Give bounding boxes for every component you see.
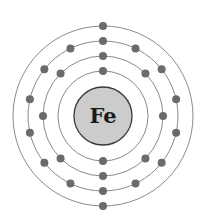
- electron-shell-3: [40, 159, 48, 167]
- electron-shell-2: [99, 52, 107, 60]
- electron-shell-3: [99, 187, 107, 195]
- electron-shell-3: [132, 44, 140, 52]
- electron-shell-4: [99, 202, 107, 210]
- electron-shell-3: [172, 95, 180, 103]
- electron-shell-3: [158, 65, 166, 73]
- electron-shell-1: [99, 157, 107, 165]
- electron-shell-2: [99, 172, 107, 180]
- electron-shell-2: [57, 154, 65, 162]
- electron-shell-2: [141, 70, 149, 78]
- electron-shell-2: [159, 112, 167, 120]
- electron-shell-3: [158, 159, 166, 167]
- electron-shell-2: [57, 70, 65, 78]
- electron-shell-2: [39, 112, 47, 120]
- electron-shell-3: [40, 65, 48, 73]
- electron-shell-3: [26, 95, 34, 103]
- electron-shell-3: [172, 129, 180, 137]
- electron-shell-3: [26, 129, 34, 137]
- electron-shell-3: [66, 44, 74, 52]
- electron-shell-3: [132, 180, 140, 188]
- electron-shell-3: [66, 180, 74, 188]
- electron-shell-3: [99, 37, 107, 45]
- element-symbol: Fe: [89, 103, 116, 128]
- electron-shell-1: [99, 67, 107, 75]
- bohr-model-diagram: Fe: [0, 0, 206, 220]
- electron-shell-4: [99, 22, 107, 30]
- electron-shell-2: [141, 154, 149, 162]
